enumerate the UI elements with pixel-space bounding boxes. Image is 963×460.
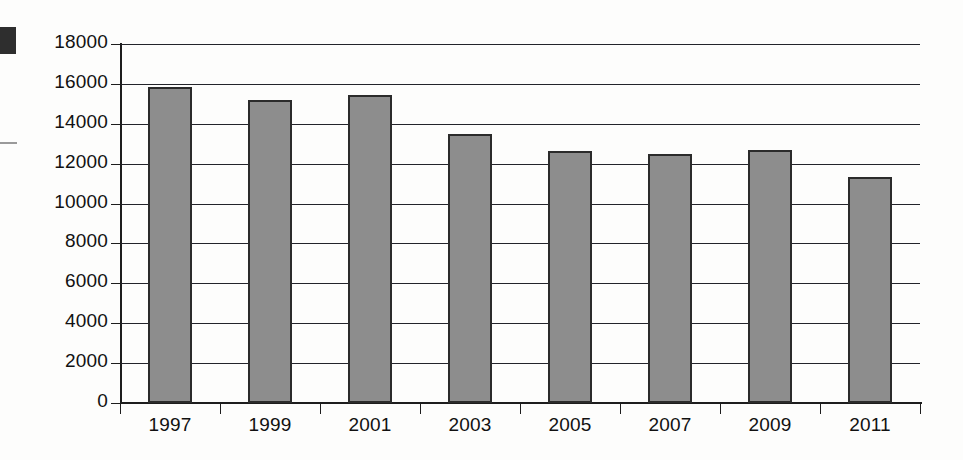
y-axis-labels: 0200040006000800010000120001400016000180… [0, 0, 108, 460]
x-axis-tick-label: 2011 [810, 414, 930, 436]
y-axis-tick-label: 10000 [54, 191, 108, 213]
y-tick-mark [111, 84, 121, 85]
bar-2003 [448, 134, 492, 403]
y-tick-mark [111, 44, 121, 45]
x-tick-mark [620, 404, 621, 414]
y-axis-tick-label: 16000 [54, 71, 108, 93]
x-tick-mark [120, 404, 121, 414]
y-tick-mark [111, 124, 121, 125]
gridline [120, 84, 920, 85]
x-tick-mark [420, 404, 421, 414]
y-tick-mark [111, 323, 121, 324]
bar-2001 [348, 95, 392, 403]
y-axis-tick-label: 14000 [54, 111, 108, 133]
x-axis-labels: 19971999200120032005200720092011 [0, 414, 963, 444]
gridline [120, 283, 920, 284]
y-axis-tick-label: 12000 [54, 151, 108, 173]
x-tick-mark [820, 404, 821, 414]
y-axis-tick-label: 6000 [65, 270, 108, 292]
x-tick-mark [720, 404, 721, 414]
bar-2005 [548, 151, 592, 403]
gridline [120, 243, 920, 244]
gridline [120, 124, 920, 125]
gridline [120, 164, 920, 165]
x-tick-mark [320, 404, 321, 414]
y-axis-tick-label: 8000 [65, 230, 108, 252]
bar-1999 [248, 100, 292, 403]
y-axis-line [120, 43, 122, 404]
bar-chart-figure: 0200040006000800010000120001400016000180… [0, 0, 963, 460]
bar-1997 [148, 87, 192, 403]
y-axis-tick-label: 2000 [65, 350, 108, 372]
y-axis-tick-label: 0 [97, 390, 108, 412]
plot-area [120, 44, 920, 403]
bar-2009 [748, 150, 792, 403]
gridline [120, 204, 920, 205]
y-tick-mark [111, 363, 121, 364]
gridline [120, 323, 920, 324]
x-tick-mark [220, 404, 221, 414]
y-tick-mark [111, 283, 121, 284]
y-axis-tick-label: 18000 [54, 31, 108, 53]
x-tick-mark [920, 404, 921, 414]
y-tick-mark [111, 164, 121, 165]
bar-2011 [848, 177, 892, 403]
x-tick-mark [520, 404, 521, 414]
y-tick-mark [111, 204, 121, 205]
y-axis-tick-label: 4000 [65, 310, 108, 332]
gridline [120, 44, 920, 45]
y-tick-mark [111, 243, 121, 244]
gridline [120, 363, 920, 364]
bar-2007 [648, 154, 692, 403]
